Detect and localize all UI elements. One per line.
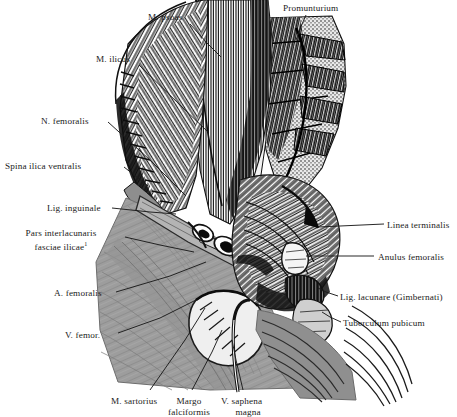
label-lig-lacunare: Lig. lacunare (Gimbernati) [340,292,443,303]
leader-tuberculum [322,312,341,322]
leader-margo-falc [192,330,222,390]
anatomical-plate: PromunturiumM. psoasM. ilicusN. femorali… [0,0,457,417]
label-lig-inguinale: Lig. inguinale [47,203,101,214]
leader-pars-inter [125,237,194,252]
leader-m-ilicus [139,65,208,132]
label-m-psoas: M. psoas [148,12,182,23]
leader-lig-lacunare [318,288,338,296]
leader-v-femor [118,300,196,333]
label-spina-ilica: Spina ilica ventralis [5,161,81,172]
label-tuberculum: Tuberculum pubicum [343,318,425,329]
label-v-femor: V. femor. [65,330,100,341]
leader-promunturium [296,15,306,40]
leader-v-saphena [232,340,243,390]
label-m-sartorius: M. sartorius [111,396,157,407]
leader-m-psoas [190,24,221,57]
label-anulus-femoralis: Anulus femoralis [378,252,444,263]
label-pars-interlacunaris: Pars interlacunarisfasciae ilicae1 [2,228,120,252]
label-m-ilicus: M. ilicus [96,54,130,65]
leader-a-femoralis [116,262,206,292]
label-linea-terminalis: Linea terminalis [387,220,449,231]
footnote-marker: 1 [84,241,87,247]
leader-spina-ilica [124,167,148,186]
label-promunturium: Promunturium [283,3,338,14]
label-v-saphena-magna-second-line: magna [218,407,278,417]
label-v-saphena: V. saphena [221,396,262,407]
label-n-femoralis: N. femoralis [41,116,89,127]
leader-m-sartorius [150,308,205,390]
leader-lig-inguinale [112,208,176,214]
label-margo-falciformis: Margofalciformis [160,396,218,417]
label-a-femoralis: A. femoralis [54,288,102,299]
leader-linea-term [318,224,384,227]
